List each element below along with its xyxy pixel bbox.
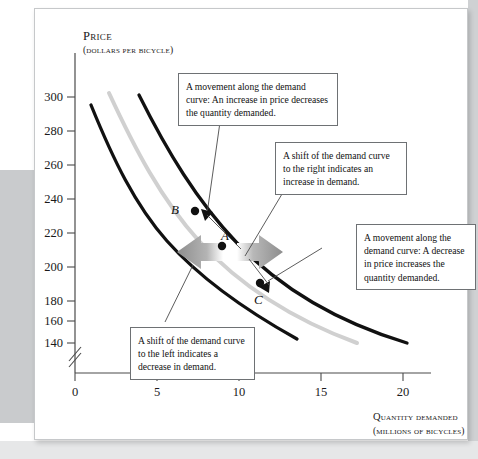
callout-shift-left: A shift of the demand curve to the left … xyxy=(130,327,255,380)
x-axis-title: Quantity demanded xyxy=(373,411,458,422)
page-margin-top-left xyxy=(0,0,34,170)
point-label-B: B xyxy=(171,202,179,218)
callout-shift-right: A shift of the demand curve to the right… xyxy=(275,142,407,195)
y-tick-300: 300 xyxy=(33,90,63,105)
demand-curve-shifted-left xyxy=(91,105,297,339)
page-margin-shade-bottom xyxy=(0,441,478,459)
x-tick-15: 15 xyxy=(308,385,334,400)
figure-card: Price (dollars per bicycle) Quantity dem… xyxy=(34,8,468,440)
point-label-C: C xyxy=(254,292,263,308)
figure-root: Price (dollars per bicycle) Quantity dem… xyxy=(0,0,478,459)
y-tick-260: 260 xyxy=(33,158,63,173)
shift-right-arrow xyxy=(237,235,283,269)
page-margin-shade-left xyxy=(0,170,34,423)
point-B xyxy=(191,207,199,215)
y-tick-240: 240 xyxy=(33,192,63,207)
x-tick-0: 0 xyxy=(62,385,88,400)
shift-left-arrow xyxy=(177,235,223,269)
y-axis-subtitle: (dollars per bicycle) xyxy=(83,45,173,55)
x-tick-10: 10 xyxy=(226,385,252,400)
y-axis-title: Price xyxy=(83,29,112,44)
y-tick-180: 180 xyxy=(33,294,63,309)
y-axis-ticks xyxy=(67,97,75,343)
y-tick-220: 220 xyxy=(33,226,63,241)
x-tick-5: 5 xyxy=(144,385,170,400)
y-tick-140: 140 xyxy=(33,336,63,351)
y-tick-200: 200 xyxy=(33,260,63,275)
y-tick-280: 280 xyxy=(33,124,63,139)
y-tick-160: 160 xyxy=(33,314,63,329)
point-C xyxy=(256,279,264,287)
callout-movement-up: A movement along the demand curve: An in… xyxy=(178,73,338,126)
x-tick-20: 20 xyxy=(390,385,416,400)
callout-movement-down: A movement along the demand curve: A dec… xyxy=(356,224,476,290)
point-label-A: A xyxy=(221,228,229,244)
x-axis-subtitle: (millions of bicycles) xyxy=(373,426,465,436)
